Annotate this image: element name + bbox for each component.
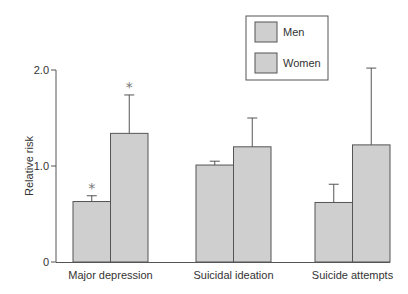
category-label: Suicide attempts [312, 269, 394, 281]
bars: ** [73, 68, 390, 262]
bar-women-1 [234, 147, 272, 262]
y-tick-label: 2.0 [34, 64, 49, 76]
category-labels: Major depressionSuicidal ideationSuicide… [68, 269, 393, 281]
significance-marker: * [126, 79, 133, 95]
legend-label-men: Men [283, 26, 304, 38]
category-label: Major depression [68, 269, 152, 281]
legend-swatch-men [255, 22, 277, 42]
bar-women-0 [111, 133, 149, 262]
bar-women-2 [353, 145, 391, 262]
bar-men-2 [315, 202, 353, 262]
significance-marker: * [88, 180, 95, 196]
y-tick-label: 1.0 [34, 160, 49, 172]
legend: Men Women [246, 16, 328, 80]
legend-swatch-women [255, 53, 277, 73]
bar-men-0 [73, 202, 111, 262]
bar-chart: Men Women Relative risk 01.02.0 ** Major… [0, 0, 408, 294]
legend-label-women: Women [283, 57, 321, 69]
bar-men-1 [196, 165, 234, 262]
y-tick-label: 0 [43, 256, 49, 268]
category-label: Suicidal ideation [193, 269, 273, 281]
